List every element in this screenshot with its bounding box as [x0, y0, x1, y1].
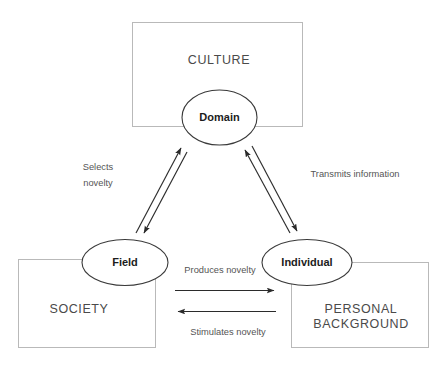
diagram-canvas: CULTURE SOCIETY PERSONAL BACKGROUND Sele…: [0, 0, 446, 366]
domain-node-group: Domain: [182, 90, 257, 145]
individual-to-domain-arrow: [245, 150, 290, 233]
selects-novelty-label-line2: novelty: [83, 178, 113, 188]
domain-node-label: Domain: [199, 111, 240, 123]
personal-background-box-label-line2: BACKGROUND: [313, 317, 409, 331]
produces-novelty-label: Produces novelty: [184, 265, 256, 275]
domain-to-field-arrow: [144, 152, 187, 233]
stimulates-novelty-connector: Stimulates novelty: [178, 312, 276, 338]
personal-background-box-label-line1: PERSONAL: [325, 302, 398, 316]
field-node-label: Field: [112, 256, 138, 268]
individual-node-group: Individual: [262, 240, 352, 286]
produces-novelty-connector: Produces novelty: [175, 265, 274, 290]
transmits-information-label: Transmits information: [310, 169, 399, 179]
transmits-information-connector: Transmits information: [245, 146, 400, 233]
field-to-domain-arrow: [136, 148, 181, 233]
individual-node-label: Individual: [281, 256, 332, 268]
stimulates-novelty-label: Stimulates novelty: [190, 327, 266, 337]
systems-model-diagram: CULTURE SOCIETY PERSONAL BACKGROUND Sele…: [0, 0, 446, 366]
society-box-label: SOCIETY: [49, 302, 108, 316]
culture-box-label: CULTURE: [188, 53, 250, 67]
domain-to-individual-arrow: [252, 146, 297, 231]
field-node-group: Field: [82, 240, 168, 286]
selects-novelty-label-line1: Selects: [83, 162, 114, 172]
selects-novelty-connector: Selects novelty: [83, 148, 187, 233]
